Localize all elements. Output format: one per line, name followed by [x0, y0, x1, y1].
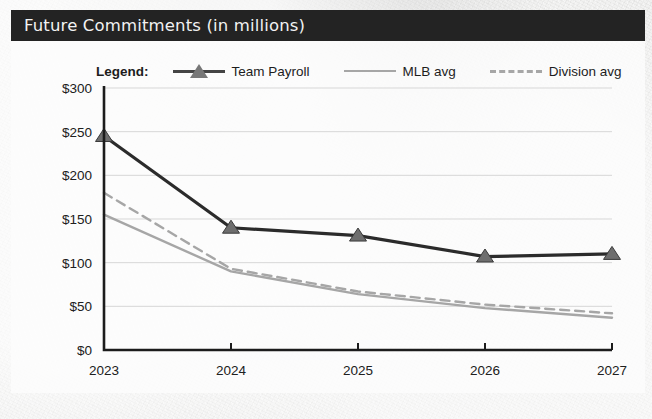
x-tick-label: 2027: [597, 363, 627, 378]
x-axis-tick-labels: 20232024202520262027: [89, 363, 627, 378]
y-tick-label: $100: [62, 256, 92, 271]
x-tick-label: 2025: [343, 363, 373, 378]
chart-axes: [104, 86, 612, 350]
x-tick-label: 2026: [470, 363, 500, 378]
x-tick-label: 2024: [216, 363, 247, 378]
y-tick-label: $0: [77, 343, 92, 358]
y-tick-label: $50: [69, 299, 92, 314]
y-tick-label: $150: [62, 212, 92, 227]
y-tick-label: $250: [62, 125, 92, 140]
x-tick-label: 2023: [89, 363, 119, 378]
line-chart-svg: $0$50$100$150$200$250$300 20232024202520…: [0, 0, 652, 419]
series-layer: [96, 128, 621, 317]
gridlines: [104, 88, 612, 306]
chart-page: Future Commitments (in millions) Legend:…: [0, 0, 652, 419]
y-tick-label: $200: [62, 168, 92, 183]
y-axis-tick-labels: $0$50$100$150$200$250$300: [62, 81, 92, 358]
plot-area: $0$50$100$150$200$250$300 20232024202520…: [0, 0, 652, 419]
y-tick-label: $300: [62, 81, 92, 96]
